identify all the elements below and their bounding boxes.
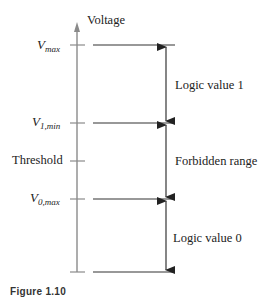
vmax-label: Vmax <box>37 37 60 54</box>
voltage-axis <box>74 22 80 272</box>
axis-label: Voltage <box>87 13 125 28</box>
forbidden-range-label: Forbidden range <box>175 154 257 169</box>
threshold-label: Threshold <box>12 153 63 168</box>
level-lines <box>93 45 175 272</box>
v0max-label: V0,max <box>30 190 60 207</box>
logic-value-1-label: Logic value 1 <box>175 78 244 93</box>
v1min-label: V1,min <box>32 114 60 131</box>
figure-caption: Figure 1.10 <box>10 286 66 297</box>
logic-value-0-label: Logic value 0 <box>173 231 242 246</box>
axis-arrow-icon <box>74 22 80 32</box>
